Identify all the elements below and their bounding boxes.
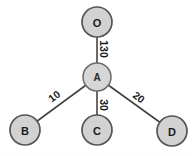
node-d-label: D bbox=[168, 126, 176, 138]
node-a[interactable]: A bbox=[83, 63, 111, 91]
node-c[interactable]: C bbox=[82, 115, 112, 145]
node-o-label: O bbox=[93, 17, 102, 29]
edge-weight-a-b: 10 bbox=[46, 88, 63, 105]
node-group: O A B C D bbox=[10, 7, 187, 146]
node-d[interactable]: D bbox=[157, 116, 187, 146]
edge-weight-a-o: 130 bbox=[98, 40, 110, 58]
node-c-label: C bbox=[93, 125, 101, 137]
graph-svg: O A B C D 130 bbox=[0, 0, 192, 156]
bottom-crop-artifact bbox=[0, 153, 192, 156]
edge-weight-a-c: 30 bbox=[98, 99, 110, 111]
node-o[interactable]: O bbox=[82, 7, 112, 37]
node-b[interactable]: B bbox=[10, 115, 40, 145]
node-b-label: B bbox=[21, 125, 29, 137]
diagram-canvas: O A B C D 130 bbox=[0, 0, 192, 156]
node-a-label: A bbox=[93, 72, 100, 83]
